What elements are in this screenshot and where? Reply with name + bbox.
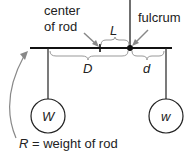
fulcrum-label: fulcrum (138, 11, 181, 24)
lever-diagram: center of rod fulcrum L D d W w R = weig… (0, 0, 188, 152)
R-caption: R = weight of rod (19, 137, 118, 150)
R-arrow-head-icon (20, 51, 28, 60)
center-of-rod-label-line2: of rod (44, 20, 77, 33)
D-label: D (83, 62, 92, 75)
W-label: W (42, 110, 54, 123)
L-label: L (110, 24, 117, 37)
d-label: d (143, 62, 150, 75)
D-brace (50, 51, 128, 60)
R-symbol: R (19, 136, 28, 151)
L-brace (101, 37, 129, 45)
center-of-rod-label-line1: center (44, 4, 80, 17)
R-arrow-curve (10, 56, 24, 138)
w-label: w (161, 110, 170, 123)
d-brace (132, 51, 164, 60)
